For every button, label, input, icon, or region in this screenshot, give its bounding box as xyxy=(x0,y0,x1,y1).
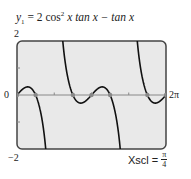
zero-marker xyxy=(108,93,112,97)
zero-marker xyxy=(89,93,93,97)
xscl-label: Xscl = π 4 xyxy=(128,150,167,169)
zero-marker xyxy=(15,93,19,97)
zero-marker xyxy=(71,93,75,97)
zero-marker xyxy=(33,93,37,97)
xscl-fraction: π 4 xyxy=(161,150,167,169)
zero-marker xyxy=(145,93,149,97)
zero-marker xyxy=(164,93,168,97)
